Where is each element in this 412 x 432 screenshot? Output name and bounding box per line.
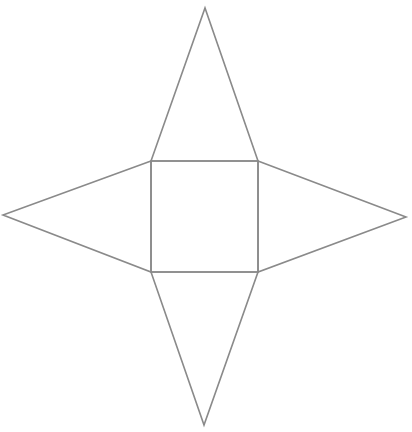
left-triangle-face [3,161,151,272]
bottom-triangle-face [151,272,258,425]
diagram-svg [0,0,412,432]
square-base-face [151,161,258,272]
top-triangle-face [151,8,258,161]
right-triangle-face [258,161,406,272]
pyramid-net-diagram [0,0,412,432]
